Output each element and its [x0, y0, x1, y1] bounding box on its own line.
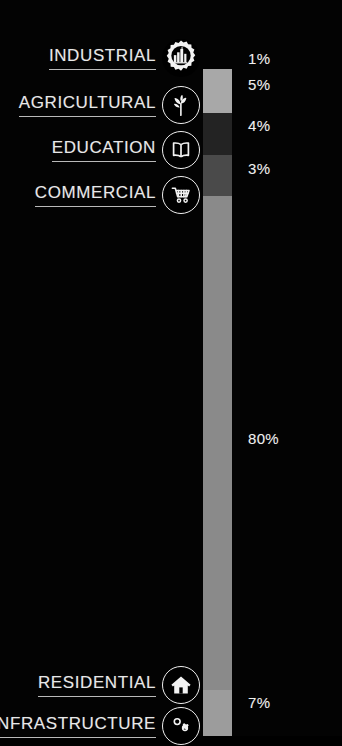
label-underline [19, 116, 156, 117]
category-row-education[interactable]: EDUCATION [0, 130, 200, 170]
open-book-icon [162, 131, 200, 169]
percent-label-1: 1% [248, 50, 270, 67]
shopping-cart-icon [162, 176, 200, 214]
category-label: AGRICULTURAL [19, 93, 156, 113]
category-label-wrap: RESIDENTIAL [38, 673, 162, 697]
category-label-wrap: AGRICULTURAL [19, 93, 162, 117]
percent-label-4: 4% [248, 117, 270, 134]
category-row-residential[interactable]: RESIDENTIAL [0, 665, 200, 705]
category-label-wrap: INDUSTRIAL [49, 46, 162, 70]
category-label: RESIDENTIAL [38, 673, 156, 693]
category-label: INDUSTRIAL [49, 46, 156, 66]
category-label: INFRASTRUCTURE [0, 714, 156, 734]
category-label-wrap: EDUCATION [52, 138, 162, 162]
percent-label-80: 80% [248, 430, 279, 447]
category-row-agricultural[interactable]: AGRICULTURAL [0, 85, 200, 125]
gear-factory-icon [162, 39, 200, 77]
bar-segment-5[interactable] [203, 69, 232, 113]
bar-segment-7[interactable] [203, 690, 232, 736]
percent-label-3: 3% [248, 160, 270, 177]
bar-segment-80[interactable] [203, 196, 232, 690]
stacked-bar-chart[interactable] [203, 69, 232, 736]
label-underline [35, 206, 156, 207]
category-label-wrap: COMMERCIAL [35, 183, 162, 207]
label-underline [0, 737, 156, 738]
percent-label-5: 5% [248, 76, 270, 93]
home-icon [162, 666, 200, 704]
category-row-commercial[interactable]: COMMERCIAL [0, 175, 200, 215]
category-row-industrial[interactable]: INDUSTRIAL [0, 38, 200, 78]
bar-segment-3[interactable] [203, 155, 232, 196]
label-underline [49, 69, 156, 70]
plant-sprout-icon [162, 86, 200, 124]
label-underline [38, 696, 156, 697]
category-label: EDUCATION [52, 138, 156, 158]
category-label-wrap: INFRASTRUCTURE [0, 714, 162, 738]
category-label: COMMERCIAL [35, 183, 156, 203]
category-row-infrastructure[interactable]: INFRASTRUCTURE [0, 706, 200, 746]
percent-label-7: 7% [248, 694, 270, 711]
gear-cog-icon [162, 707, 200, 745]
label-underline [52, 161, 156, 162]
bar-segment-4[interactable] [203, 113, 232, 155]
